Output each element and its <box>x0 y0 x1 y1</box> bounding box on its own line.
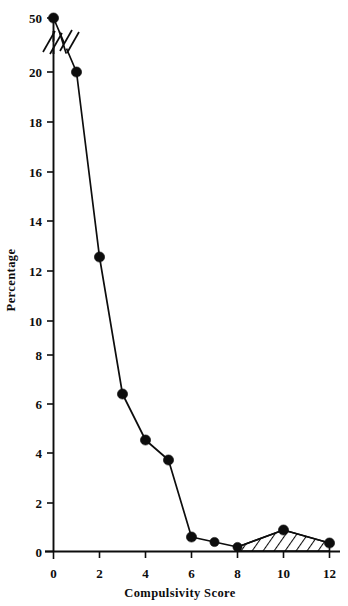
data-point <box>163 455 173 465</box>
x-axis-tick-labels: 0 2 4 6 8 10 12 <box>50 566 336 581</box>
data-point <box>117 389 127 399</box>
x-tick-label: 4 <box>142 566 149 581</box>
data-point <box>324 538 334 548</box>
data-point <box>278 525 288 535</box>
chart-figure: 50 20 18 16 14 12 10 8 6 4 2 0 0 2 4 6 8… <box>0 0 348 606</box>
y-tick-label: 10 <box>29 314 42 329</box>
x-tick-label: 6 <box>188 566 195 581</box>
y-tick-label: 6 <box>36 397 43 412</box>
y-tick-label: 4 <box>36 446 43 461</box>
data-point <box>71 67 81 77</box>
x-tick-label: 0 <box>50 566 57 581</box>
line-chart-canvas: 50 20 18 16 14 12 10 8 6 4 2 0 0 2 4 6 8… <box>0 0 348 606</box>
data-point <box>94 252 104 262</box>
data-point <box>233 542 242 551</box>
y-tick-label: 0 <box>36 545 43 560</box>
data-point <box>210 537 219 546</box>
data-point-markers <box>48 13 334 552</box>
y-tick-label: 12 <box>29 264 42 279</box>
y-axis-break-marker <box>43 30 79 54</box>
x-tick-label: 10 <box>277 566 290 581</box>
data-series-line <box>54 18 330 547</box>
data-point <box>140 435 150 445</box>
y-axis-title: Percentage <box>4 249 18 312</box>
data-point <box>186 532 196 542</box>
y-tick-label: 16 <box>29 165 43 180</box>
x-tick-label: 8 <box>234 566 241 581</box>
y-tick-label: 8 <box>36 348 43 363</box>
y-tick-label: 50 <box>29 11 42 26</box>
y-tick-label: 14 <box>29 214 43 229</box>
y-axis-tick-labels: 50 20 18 16 14 12 10 8 6 4 2 0 <box>29 11 43 560</box>
x-tick-label: 2 <box>96 566 103 581</box>
y-tick-label: 18 <box>29 115 43 130</box>
x-axis-ticks <box>54 552 330 560</box>
x-axis-title: Compulsivity Score <box>124 586 236 600</box>
y-tick-label: 20 <box>29 65 42 80</box>
y-axis-ticks <box>45 18 54 552</box>
x-tick-label: 12 <box>323 566 336 581</box>
data-point <box>48 13 58 23</box>
y-tick-label: 2 <box>36 496 43 511</box>
